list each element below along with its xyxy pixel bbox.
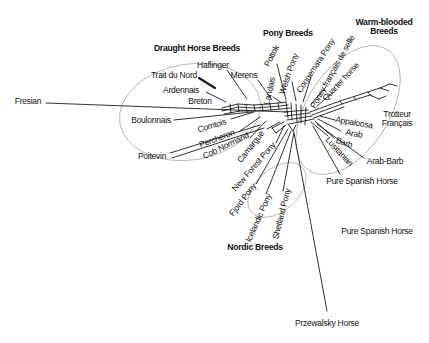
breed-label-poitevin: Poitevin — [138, 152, 166, 161]
breed-label-arab-barb: Arab-Barb — [367, 157, 404, 166]
horse-breeds-network-figure: Draught Horse Breeds Pony Breeds Warm-bl… — [0, 0, 429, 343]
breed-label-haflinger: Haflinger — [197, 61, 229, 70]
trait-du-nord-arrow — [199, 78, 215, 88]
group-header-warm-blooded: Warm-blooded Breeds — [349, 18, 419, 37]
breed-label-pure-spanish-horse-2: Pure Spanish Horse — [341, 227, 413, 236]
breed-label-boulonnais: Boulonnais — [131, 116, 171, 125]
group-header-draught: Draught Horse Breeds — [154, 44, 240, 53]
breed-label-ardennais: Ardennais — [163, 86, 199, 95]
przewalsky-line — [294, 133, 327, 311]
breed-label-breton: Breton — [188, 97, 212, 106]
breed-label-fresian: Fresian — [15, 97, 42, 106]
group-header-pony: Pony Breeds — [263, 29, 313, 38]
breed-label-przewalsky-horse: Przewalsky Horse — [295, 319, 359, 328]
breed-label-trotteur-francais: Trotteur Français — [375, 110, 419, 129]
breed-label-merens: Merens — [231, 71, 258, 80]
breed-label-pure-spanish-horse: Pure Spanish Horse — [326, 177, 398, 186]
breed-label-trait-du-nord: Trait du Nord — [151, 71, 197, 80]
group-header-nordic: Nordic Breeds — [227, 243, 283, 252]
